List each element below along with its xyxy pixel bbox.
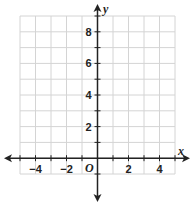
x-tick-label: −4: [29, 163, 42, 175]
y-tick-label: 2: [85, 121, 91, 133]
x-axis-label: x: [177, 144, 184, 158]
tick-labels: −4−2242468: [29, 26, 163, 175]
y-tick-label: 4: [85, 89, 92, 101]
y-tick-label: 6: [85, 57, 91, 69]
y-axis-label: y: [101, 2, 109, 16]
x-tick-label: −2: [60, 163, 73, 175]
origin-label: O: [85, 161, 94, 175]
x-tick-label: 4: [156, 163, 163, 175]
coordinate-plane: −4−2242468 x y O: [0, 0, 196, 209]
y-tick-label: 8: [85, 26, 91, 38]
x-tick-label: 2: [125, 163, 131, 175]
